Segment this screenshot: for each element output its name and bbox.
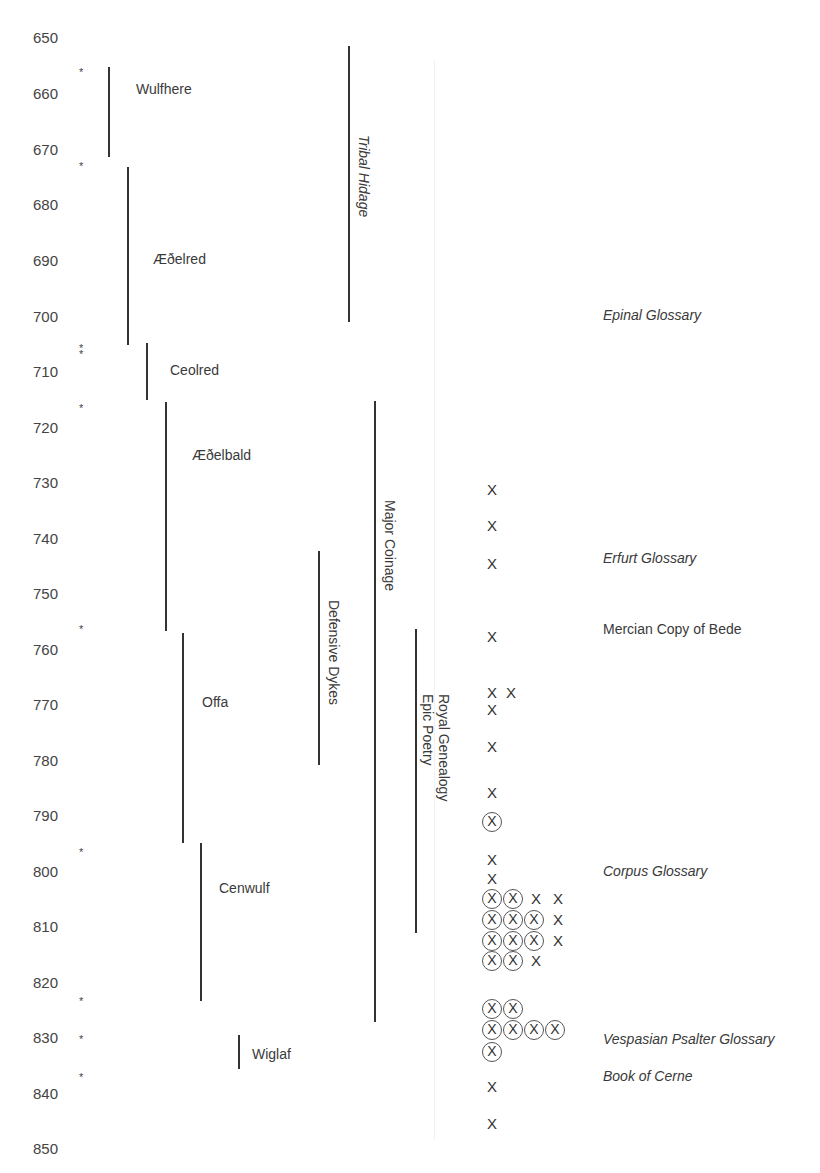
asterisk-icon: * xyxy=(79,67,83,77)
asterisk-icon: * xyxy=(79,403,83,413)
circled-charter-mark: X xyxy=(503,889,523,909)
charter-mark: X xyxy=(482,516,502,536)
circled-charter-mark: X xyxy=(482,1042,502,1062)
charter-mark: X xyxy=(482,1077,502,1097)
tick-720: 720 xyxy=(33,420,73,436)
reign-bar-wiglaf xyxy=(238,1035,240,1069)
charter-mark: X xyxy=(482,700,502,720)
king-label-aethelred: Æðelred xyxy=(153,251,206,267)
tick-710: 710 xyxy=(33,364,73,380)
reign-bar-cenwulf xyxy=(200,843,202,1001)
tick-780: 780 xyxy=(33,753,73,769)
period-bar-defensive-dykes xyxy=(318,551,320,765)
circled-charter-mark: X xyxy=(482,999,502,1019)
circled-charter-mark: X xyxy=(482,951,502,971)
tick-660: 660 xyxy=(33,86,73,102)
reign-bar-wulfhere xyxy=(108,67,110,157)
circled-charter-mark: X xyxy=(524,1020,544,1040)
document-book-of-cerne: Book of Cerne xyxy=(603,1068,693,1084)
circled-charter-mark: X xyxy=(503,931,523,951)
charter-mark: X xyxy=(548,889,568,909)
circled-charter-mark: X xyxy=(524,910,544,930)
circled-charter-mark: X xyxy=(482,931,502,951)
tick-830: 830 xyxy=(33,1030,73,1046)
tick-800: 800 xyxy=(33,864,73,880)
asterisk-icon: * xyxy=(79,161,83,171)
circled-charter-mark: X xyxy=(482,1020,502,1040)
asterisk-icon: * xyxy=(79,624,83,634)
document-vespasian-psalter-glossary: Vespasian Psalter Glossary xyxy=(603,1031,774,1047)
asterisk-icon: * xyxy=(79,349,83,359)
period-label-tribal-hidage: Tribal Hidage xyxy=(356,135,372,217)
document-epinal-glossary: Epinal Glossary xyxy=(603,307,701,323)
tick-650: 650 xyxy=(33,30,73,46)
charter-mark: X xyxy=(482,1114,502,1134)
tick-770: 770 xyxy=(33,697,73,713)
tick-690: 690 xyxy=(33,253,73,269)
reign-bar-aethelbald xyxy=(165,402,167,631)
reign-bar-offa xyxy=(182,633,184,843)
charter-mark: X xyxy=(526,889,546,909)
charter-mark: X xyxy=(482,627,502,647)
tick-730: 730 xyxy=(33,475,73,491)
charter-mark: X xyxy=(482,869,502,889)
period-bar-royal-genealogy xyxy=(415,629,417,933)
circled-charter-mark: X xyxy=(503,951,523,971)
tick-750: 750 xyxy=(33,586,73,602)
king-label-wiglaf: Wiglaf xyxy=(252,1046,291,1062)
charter-mark: X xyxy=(482,850,502,870)
document-erfurt-glossary: Erfurt Glossary xyxy=(603,550,696,566)
charter-mark: X xyxy=(482,480,502,500)
asterisk-icon: * xyxy=(79,1072,83,1082)
tick-850: 850 xyxy=(33,1141,73,1157)
tick-820: 820 xyxy=(33,975,73,991)
asterisk-icon: * xyxy=(79,847,83,857)
charter-mark: X xyxy=(482,554,502,574)
asterisk-icon: * xyxy=(79,1034,83,1044)
king-label-ceolred: Ceolred xyxy=(170,362,219,378)
charter-mark: X xyxy=(548,910,568,930)
reign-bar-ceolred xyxy=(146,343,148,400)
document-mercian-copy-of-bede: Mercian Copy of Bede xyxy=(603,621,742,637)
asterisk-icon: * xyxy=(79,996,83,1006)
circled-charter-mark: X xyxy=(545,1020,565,1040)
king-label-cenwulf: Cenwulf xyxy=(219,880,270,896)
period-bar-major-coinage xyxy=(374,401,376,1022)
circled-charter-mark: X xyxy=(503,910,523,930)
charter-mark: X xyxy=(501,683,521,703)
circled-charter-mark: X xyxy=(482,812,502,832)
tick-840: 840 xyxy=(33,1086,73,1102)
tick-680: 680 xyxy=(33,197,73,213)
king-label-aethelbald: Æðelbald xyxy=(192,447,251,463)
period-label-epic-poetry: Epic Poetry xyxy=(420,694,436,766)
circled-charter-mark: X xyxy=(482,910,502,930)
scan-fold-line xyxy=(434,60,435,1140)
charter-mark: X xyxy=(482,783,502,803)
tick-760: 760 xyxy=(33,642,73,658)
circled-charter-mark: X xyxy=(503,1020,523,1040)
document-corpus-glossary: Corpus Glossary xyxy=(603,863,707,879)
circled-charter-mark: X xyxy=(482,889,502,909)
period-label-defensive-dykes: Defensive Dykes xyxy=(326,600,342,705)
tick-810: 810 xyxy=(33,919,73,935)
tick-790: 790 xyxy=(33,808,73,824)
tick-670: 670 xyxy=(33,142,73,158)
charter-mark: X xyxy=(526,951,546,971)
circled-charter-mark: X xyxy=(503,999,523,1019)
king-label-offa: Offa xyxy=(202,694,228,710)
charter-mark: X xyxy=(548,931,568,951)
king-label-wulfhere: Wulfhere xyxy=(136,81,192,97)
period-label-royal-genealogy: Royal Genealogy xyxy=(436,694,452,801)
period-bar-tribal-hidage xyxy=(348,46,350,322)
tick-700: 700 xyxy=(33,309,73,325)
period-label-major-coinage: Major Coinage xyxy=(382,500,398,591)
circled-charter-mark: X xyxy=(524,931,544,951)
tick-740: 740 xyxy=(33,531,73,547)
charter-mark: X xyxy=(482,737,502,757)
reign-bar-aethelred xyxy=(127,167,129,345)
